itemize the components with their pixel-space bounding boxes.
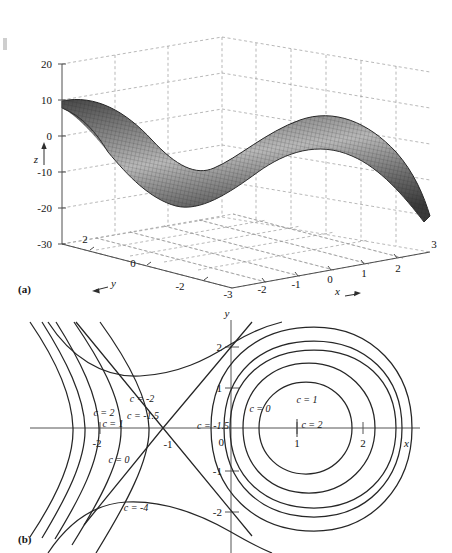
contour-label-c-2-left: c = 2 <box>93 407 114 418</box>
contour-x-tick-1: 1 <box>294 437 300 449</box>
z-tick-0: 0 <box>47 130 53 142</box>
y-tick-2: 2 <box>82 233 88 245</box>
x-tick-3: 3 <box>431 238 437 250</box>
surface-plot-panel: 20 10 0 -10 -20 -30 z 2 0 -2 y <box>0 0 452 300</box>
contour-label-c-minus-1-5-right: c = -1.5 <box>197 420 229 431</box>
panel-a-label: (a) <box>18 283 31 296</box>
contour-label-c-2-right: c = 2 <box>301 419 322 430</box>
panel-b-label: (b) <box>18 533 32 546</box>
contour-origin-label: 0 <box>219 436 225 448</box>
z-tick-m30: -30 <box>37 238 52 250</box>
contour-x-tick-2: 2 <box>360 437 366 449</box>
panel-a-label-svg: (a) <box>0 278 452 300</box>
contour-y-tick-m2: -2 <box>213 506 222 518</box>
x-tick-2: 2 <box>395 262 401 274</box>
contour-curve-lower-arc <box>48 502 272 553</box>
contour-map-svg: 2 1 -1 -2 0 y -2 1 2 x -1 <box>0 300 452 553</box>
contour-saddle-label: -1 <box>163 438 172 450</box>
contour-curve-left-1 <box>30 322 73 537</box>
contour-curve-left-4 <box>72 322 121 545</box>
z-tick-m10: -10 <box>37 166 52 178</box>
contour-label-c-1-left: c = 1 <box>102 418 123 429</box>
surface-plot-svg: 20 10 0 -10 -20 -30 z 2 0 -2 y <box>0 0 452 300</box>
contour-label-c-minus-4: c = -4 <box>124 502 149 513</box>
contour-label-c-1-right: c = 1 <box>296 394 317 405</box>
contour-y-axis-label: y <box>224 307 230 319</box>
y-tick-0: 0 <box>130 257 136 269</box>
z-tick-10: 10 <box>41 94 53 106</box>
contour-label-c-minus-2: c = -2 <box>130 393 155 404</box>
z-tick-20: 20 <box>41 58 53 70</box>
contour-map-panel: 2 1 -1 -2 0 y -2 1 2 x -1 <box>0 300 452 553</box>
z-axis-arrow-icon <box>41 142 46 165</box>
contour-label-c-0-right: c = 0 <box>249 403 270 414</box>
contour-x-axis-label: x <box>403 437 409 449</box>
contour-label-c-0-left: c = 0 <box>108 454 129 465</box>
contour-label-c-minus-1-5-left: c = -1.5 <box>127 410 159 421</box>
figure-root: 20 10 0 -10 -20 -30 z 2 0 -2 y <box>0 0 452 553</box>
z-axis-label: z <box>33 153 39 165</box>
z-tick-m20: -20 <box>37 202 52 214</box>
y-axis-ticks <box>90 247 208 280</box>
